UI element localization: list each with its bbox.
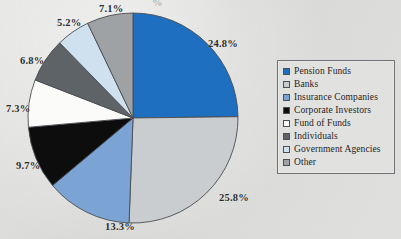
pie-slice[interactable]: [133, 13, 238, 118]
legend-item-label: Banks: [294, 78, 318, 91]
legend-item-other[interactable]: Other: [283, 156, 390, 169]
legend-swatch-icon: [283, 94, 290, 101]
legend-item-fund-of-funds[interactable]: Fund of Funds: [283, 117, 390, 130]
slice-percentage-label: 6.8%: [20, 55, 44, 66]
legend-item-label: Fund of Funds: [294, 117, 351, 130]
legend-swatch-icon: [283, 146, 290, 153]
slice-percentage-label: 7.3%: [6, 103, 30, 114]
slice-percentage-label: 7.1%: [99, 3, 123, 14]
legend-item-label: Corporate Investors: [294, 104, 371, 117]
legend-item-label: Government Agencies: [294, 143, 381, 156]
pie-slices: [28, 13, 238, 223]
legend-item-label: Other: [294, 156, 316, 169]
chart-page: % 24.8%25.8%13.3%9.7%7.3%6.8%5.2%7.1% Pe…: [0, 0, 401, 239]
legend-swatch-icon: [283, 133, 290, 140]
legend-item-label: Pension Funds: [294, 65, 351, 78]
pie-slice[interactable]: [129, 117, 238, 223]
legend-item-corporate-investors[interactable]: Corporate Investors: [283, 104, 390, 117]
legend-item-government-agencies[interactable]: Government Agencies: [283, 143, 390, 156]
legend-item-label: Individuals: [294, 130, 338, 143]
legend-swatch-icon: [283, 159, 290, 166]
slice-percentage-label: 9.7%: [16, 160, 40, 171]
chart-legend: Pension FundsBanksInsurance CompaniesCor…: [277, 60, 395, 174]
legend-item-banks[interactable]: Banks: [283, 78, 390, 91]
slice-percentage-label: 24.8%: [208, 38, 238, 49]
slice-percentage-label: 25.8%: [219, 192, 249, 203]
legend-item-individuals[interactable]: Individuals: [283, 130, 390, 143]
legend-swatch-icon: [283, 68, 290, 75]
legend-item-label: Insurance Companies: [294, 91, 378, 104]
legend-swatch-icon: [283, 81, 290, 88]
legend-swatch-icon: [283, 120, 290, 127]
slice-percentage-label: 13.3%: [105, 221, 135, 232]
legend-item-pension-funds[interactable]: Pension Funds: [283, 65, 390, 78]
slice-percentage-label: 5.2%: [57, 17, 81, 28]
legend-item-insurance-companies[interactable]: Insurance Companies: [283, 91, 390, 104]
legend-swatch-icon: [283, 107, 290, 114]
